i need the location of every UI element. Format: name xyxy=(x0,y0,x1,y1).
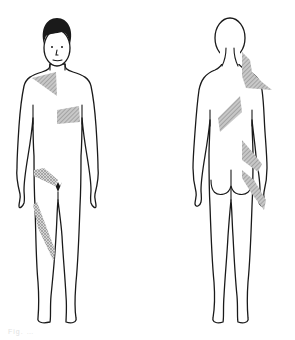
left-eye xyxy=(51,46,53,48)
shaded-region-neck-shoulder xyxy=(242,52,272,90)
figure-caption: Fig. … xyxy=(8,328,35,335)
back-body-figure xyxy=(150,0,295,340)
front-body-figure xyxy=(0,0,150,340)
right-eye xyxy=(61,46,63,48)
